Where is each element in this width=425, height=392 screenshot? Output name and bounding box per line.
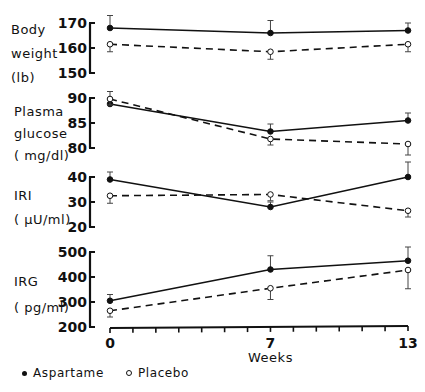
placebo-point — [405, 41, 411, 47]
y-tick-label: 160 — [58, 40, 87, 56]
placebo-point — [268, 136, 274, 142]
placebo-point — [405, 208, 411, 214]
aspartame-point — [268, 129, 274, 135]
legend-label: Placebo — [138, 366, 189, 380]
panel-3-series — [107, 247, 411, 317]
panel-label-plasma-glucose: Plasma glucose ( mg/dl) — [14, 102, 69, 166]
placebo-point — [107, 193, 113, 199]
x-axis-title: Weeks — [248, 350, 293, 365]
y-tick-label: 200 — [58, 319, 87, 335]
label-line: ( pg/ml) — [14, 298, 69, 318]
placebo-point — [107, 96, 113, 102]
label-line: ( mg/dl) — [14, 146, 69, 166]
label-line: ( μU/ml) — [14, 210, 71, 230]
legend: Aspartame Placebo — [22, 366, 205, 380]
open-circle-icon — [126, 370, 132, 376]
aspartame-line — [110, 104, 408, 132]
legend-label: Aspartame — [33, 366, 104, 380]
aspartame-point — [405, 28, 411, 34]
placebo-point — [268, 49, 274, 55]
filled-circle-icon — [22, 371, 27, 376]
label-line: Body — [11, 20, 58, 40]
label-line: glucose — [14, 124, 69, 144]
aspartame-point — [405, 258, 411, 264]
x-tick-label: 7 — [266, 335, 276, 351]
y-tick-label: 80 — [68, 140, 88, 156]
panel-0: 150160170 — [58, 15, 95, 81]
label-line: Plasma — [14, 102, 69, 122]
aspartame-point — [107, 298, 113, 304]
y-tick-label: 170 — [58, 15, 87, 31]
y-tick-label: 85 — [68, 115, 87, 131]
aspartame-point — [268, 204, 274, 210]
data-series — [107, 16, 411, 318]
label-line: weight — [11, 44, 58, 64]
x-axis-line — [110, 326, 408, 328]
panel-0-series — [107, 16, 411, 60]
legend-item-aspartame: Aspartame — [22, 366, 104, 380]
x-tick-label: 0 — [105, 335, 115, 351]
panel-1-series — [107, 92, 411, 156]
panel-label-body-weight: Body weight (lb) — [11, 20, 58, 88]
placebo-point — [405, 267, 411, 273]
aspartame-line — [110, 28, 408, 33]
aspartame-point — [268, 30, 274, 36]
aspartame-point — [107, 177, 113, 183]
panel-label-iri: IRI ( μU/ml) — [14, 186, 71, 230]
y-tick-label: 500 — [58, 244, 87, 260]
aspartame-point — [268, 267, 274, 273]
y-tick-label: 90 — [68, 90, 88, 106]
label-line: IRI — [14, 186, 71, 206]
panel-label-irg: IRG ( pg/ml) — [14, 272, 69, 318]
placebo-point — [405, 141, 411, 147]
placebo-line — [110, 99, 408, 144]
aspartame-point — [107, 25, 113, 31]
label-line: IRG — [14, 272, 69, 292]
y-tick-label: 40 — [68, 169, 88, 185]
legend-item-placebo: Placebo — [126, 366, 189, 380]
y-tick-label: 150 — [58, 65, 87, 81]
x-tick-label: 13 — [398, 335, 417, 351]
label-line: (lb) — [11, 68, 58, 88]
aspartame-point — [405, 118, 411, 124]
panel-2: 203040 — [68, 169, 95, 235]
placebo-point — [107, 41, 113, 47]
panel-2-series — [107, 162, 411, 217]
x-axis: 0713Weeks — [105, 326, 418, 365]
placebo-line — [110, 195, 408, 211]
panel-1: 808590 — [68, 90, 95, 156]
placebo-line — [110, 270, 408, 311]
aspartame-line — [110, 261, 408, 301]
aspartame-point — [405, 174, 411, 180]
placebo-point — [268, 285, 274, 291]
placebo-line — [110, 44, 408, 52]
placebo-point — [107, 308, 113, 314]
placebo-point — [268, 192, 274, 198]
aspartame-line — [110, 177, 408, 207]
